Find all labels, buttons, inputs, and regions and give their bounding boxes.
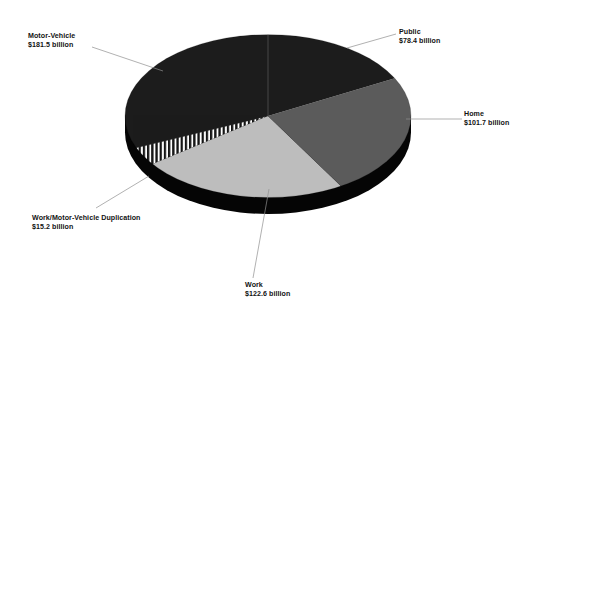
- callout-work: Work $122.6 billion: [245, 281, 290, 299]
- callout-duplication-value: $15.2 billion: [32, 223, 140, 232]
- callout-public-name: Public: [399, 28, 440, 37]
- callout-public-value: $78.4 billion: [399, 37, 440, 46]
- leader-line-public: [347, 34, 396, 48]
- callout-work-value: $122.6 billion: [245, 290, 290, 299]
- callout-home: Home $101.7 billion: [464, 110, 509, 128]
- leader-line-duplication: [96, 176, 149, 208]
- callout-duplication: Work/Motor-Vehicle Duplication $15.2 bil…: [32, 214, 140, 232]
- callout-motor-vehicle-name: Motor-Vehicle: [28, 32, 75, 41]
- callout-motor-vehicle: Motor-Vehicle $181.5 billion: [28, 32, 75, 50]
- pie-chart-svg: [0, 0, 616, 603]
- callout-home-name: Home: [464, 110, 509, 119]
- leader-line-motor-vehicle: [92, 47, 163, 71]
- callout-duplication-name: Work/Motor-Vehicle Duplication: [32, 214, 140, 223]
- callout-public: Public $78.4 billion: [399, 28, 440, 46]
- callout-motor-vehicle-value: $181.5 billion: [28, 41, 75, 50]
- callout-home-value: $101.7 billion: [464, 119, 509, 128]
- pie-chart-figure: Motor-Vehicle $181.5 billion Public $78.…: [0, 0, 616, 603]
- callout-work-name: Work: [245, 281, 290, 290]
